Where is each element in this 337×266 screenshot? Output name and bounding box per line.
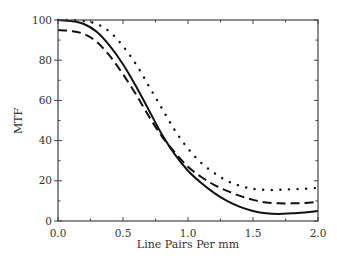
x-tick-label: 0.5 [115,227,132,239]
axes: 0.00.51.01.52.0020406080100 [32,14,326,240]
series-line-dashed [58,30,318,203]
plot-frame [58,20,318,221]
y-tick-label: 20 [39,174,52,186]
x-tick-label: 0.0 [50,227,67,239]
plot-area [58,20,318,214]
series-line-dotted [58,20,318,190]
y-tick-label: 40 [39,134,52,146]
y-tick-label: 100 [32,14,52,26]
x-axis-label: Line Pairs Per mm [137,238,240,251]
x-tick-label: 1.5 [245,227,262,239]
y-axis-label: MTF [12,108,25,135]
y-tick-label: 0 [45,215,52,227]
y-tick-label: 80 [39,54,52,66]
series-line-solid [58,20,318,214]
x-tick-label: 2.0 [310,227,327,239]
y-tick-label: 60 [39,94,52,106]
mtf-chart: 0.00.51.01.52.0020406080100 Line Pairs P… [0,0,337,266]
